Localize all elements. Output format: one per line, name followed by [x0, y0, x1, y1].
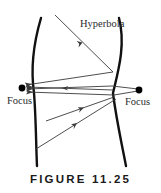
reflected-ray-upper: [26, 72, 113, 85]
right-focus-label: Focus: [125, 96, 150, 107]
hyperbola-diagram: Hyperbola Focus Focus FIGURE 11.25: [0, 0, 161, 193]
left-focus-label: Focus: [7, 95, 32, 106]
incoming-ray-lower: [114, 91, 138, 95]
incoming-ray-upper-arrowhead: [77, 41, 83, 48]
hyperbola-label: Hyperbola: [80, 18, 125, 29]
right-branch-curve: [113, 18, 126, 166]
figure-container: Hyperbola Focus Focus FIGURE 11.25: [0, 0, 161, 193]
left-focus-dot: [19, 85, 26, 92]
incoming-ray-mid: [112, 86, 138, 89]
incoming-ray-bottom-1-arrowhead: [78, 107, 84, 113]
figure-caption: FIGURE 11.25: [30, 173, 131, 185]
reflected-ray-lower: [27, 92, 114, 95]
right-focus-dot: [136, 87, 143, 94]
